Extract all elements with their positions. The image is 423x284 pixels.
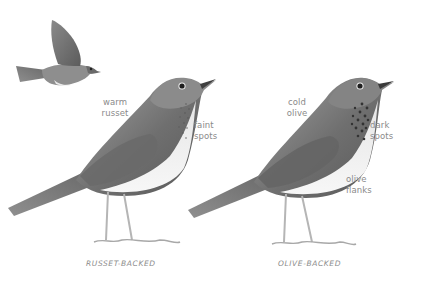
olive-feet (272, 242, 356, 245)
note-line: spots (194, 131, 224, 142)
note-line: warm (100, 97, 130, 108)
note-dark-spots: dark spots (370, 120, 400, 142)
note-line: russet (100, 108, 130, 119)
flying-bird-tail (16, 66, 46, 82)
birds-drawing (0, 0, 423, 284)
olive-legs (284, 194, 312, 242)
olive-eye (357, 83, 362, 88)
note-line: flanks (346, 185, 378, 196)
note-line: dark (370, 120, 400, 131)
note-line: olive (346, 174, 378, 185)
flying-bird-wing (51, 20, 81, 66)
russet-legs (106, 192, 132, 240)
olive-beak (378, 81, 394, 89)
note-line: faint (194, 120, 224, 131)
note-cold-olive: cold olive (283, 97, 311, 119)
russet-eye (179, 83, 184, 88)
note-line: olive (283, 108, 311, 119)
caption-olive-backed: OLIVE-BACKED (278, 259, 341, 268)
flying-bird (16, 20, 101, 86)
note-warm-russet: warm russet (100, 97, 130, 119)
russet-beak (200, 79, 216, 89)
note-line: cold (283, 97, 311, 108)
caption-russet-backed: RUSSET-BACKED (86, 259, 156, 268)
note-olive-flanks: olive flanks (346, 174, 378, 196)
note-faint-spots: faint spots (194, 120, 224, 142)
flying-bird-head (86, 66, 101, 74)
flying-bird-eye (90, 68, 92, 70)
note-line: spots (370, 131, 400, 142)
illustration-stage: warm russet faint spots cold olive dark … (0, 0, 423, 284)
